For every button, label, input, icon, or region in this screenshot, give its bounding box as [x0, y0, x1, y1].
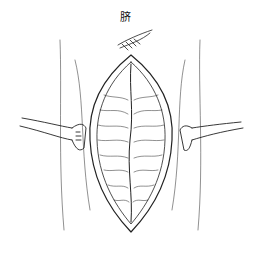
- right-retractor-icon: [180, 122, 243, 151]
- incision-drawing: [0, 0, 261, 258]
- left-retractor-icon: [20, 118, 86, 150]
- umbilicus-icon: [118, 30, 152, 50]
